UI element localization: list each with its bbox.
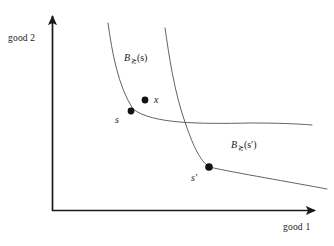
point-s — [128, 108, 135, 115]
curve-label-b-s: B≿(s) — [124, 52, 147, 65]
point-label-s: s — [115, 114, 119, 125]
indifference-curve-b-s — [108, 23, 312, 125]
point-label-s-prime: s′ — [191, 172, 197, 183]
point-s-prime — [205, 163, 213, 171]
curve-label-b-s-argument: (s) — [137, 52, 148, 63]
curve-label-b-s-prime-argument: (s′) — [244, 139, 257, 150]
indifference-curve-b-s-prime — [165, 28, 327, 189]
curve-label-b-s-prime: B≿(s′) — [231, 139, 257, 152]
x-axis-label: good 1 — [283, 222, 310, 232]
indifference-curve-figure: good 2 good 1 B≿(s) B≿(s′) s x s′ — [0, 0, 334, 246]
plot-canvas — [0, 0, 334, 246]
curve-label-b-s-prime-subscript: ≿ — [237, 144, 244, 151]
point-x — [142, 97, 149, 104]
curve-label-b-s-subscript: ≿ — [130, 57, 137, 64]
y-axis-label: good 2 — [8, 33, 35, 43]
point-label-x: x — [154, 94, 158, 105]
